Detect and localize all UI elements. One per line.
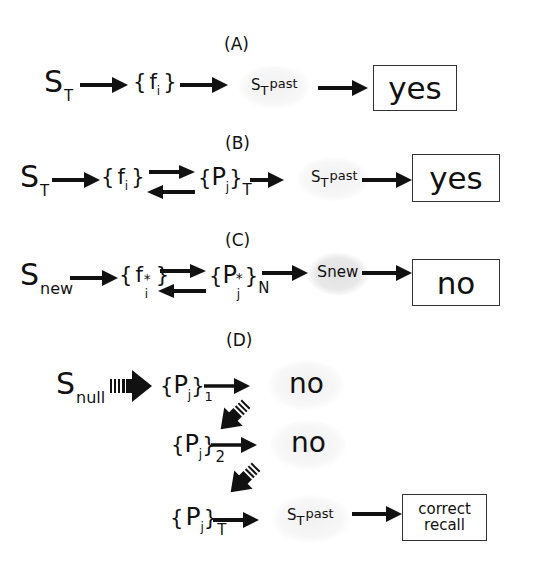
arrow-right-icon <box>362 172 414 188</box>
brace-open: { <box>160 374 173 398</box>
symbol-base: S <box>311 168 321 186</box>
panel-label-b: (B) <box>225 133 250 153</box>
output-label-line-2: recall <box>418 518 471 534</box>
brace-close: } <box>131 165 144 189</box>
pattern-subscript: j <box>200 520 203 534</box>
panel-label-a: (A) <box>224 34 249 54</box>
symbol-base: S <box>56 366 75 401</box>
brace-open: { <box>209 264 222 288</box>
pattern-symbol: P <box>222 261 236 289</box>
brace-open: { <box>171 433 184 457</box>
symbol-subscript: null <box>76 388 105 407</box>
feature-subscript: i <box>145 288 148 300</box>
input-state-snull: Snull <box>56 369 105 399</box>
input-state-snew: Snew <box>20 260 73 290</box>
pattern-symbol: P <box>211 163 225 191</box>
pattern-subscript: j <box>199 447 202 461</box>
output-label: yes <box>388 70 442 106</box>
novel-star: * <box>236 271 243 285</box>
novel-star: * <box>144 272 151 286</box>
brace-close: } <box>163 70 176 94</box>
output-box-yes: yes <box>412 154 500 202</box>
symbol-base: S <box>287 506 297 524</box>
brace-close: } <box>229 166 242 190</box>
pattern-set-subscript: N <box>258 279 269 297</box>
brace-close: } <box>191 374 204 398</box>
panel-label-c: (C) <box>225 230 250 250</box>
pattern-subscript: j <box>226 180 229 194</box>
novel-pattern-set: {P*j}N <box>209 263 269 287</box>
arrow-right-icon <box>318 80 370 96</box>
bidirectional-arrows-icon <box>147 164 197 200</box>
panel-label-d: (D) <box>226 330 252 350</box>
arrow-right-icon <box>70 270 120 286</box>
symbol-subscript: T <box>321 175 329 190</box>
result-no-2: no <box>291 426 326 459</box>
feature-symbol: f <box>135 263 142 287</box>
symbol-subscript: new <box>40 279 73 298</box>
output-box-correct-recall: correct recall <box>402 494 487 541</box>
symbol-base: S <box>251 76 261 94</box>
output-label: correct recall <box>418 502 471 534</box>
output-label: no <box>437 265 476 301</box>
brace-open: { <box>101 165 114 189</box>
arrow-right-icon <box>352 506 404 522</box>
output-box-yes: yes <box>373 65 457 111</box>
input-state-st: ST <box>20 162 49 192</box>
memory-state-st-past: STpast <box>251 76 298 94</box>
symbol-base: S <box>317 262 327 281</box>
memory-state-st-past: STpast <box>311 168 358 186</box>
pattern-subscript: j <box>237 288 240 300</box>
hatched-arrow-right-icon <box>110 370 154 402</box>
output-box-no: no <box>412 259 500 306</box>
brace-close: } <box>245 264 258 288</box>
symbol-superscript: past <box>329 168 357 183</box>
brace-open: { <box>119 263 132 287</box>
arrow-right-icon <box>52 172 102 188</box>
symbol-subscript: T <box>261 83 269 98</box>
arrow-right-icon <box>211 437 259 453</box>
hatched-arrow-down-left-icon <box>222 463 262 499</box>
arrow-right-icon <box>80 77 130 93</box>
symbol-subscript: new <box>327 263 358 281</box>
symbol-superscript: past <box>305 506 333 521</box>
pattern-subscript: j <box>188 388 191 402</box>
memory-state-st-past: STpast <box>287 506 334 524</box>
symbol-base: S <box>44 64 63 99</box>
arrow-right-icon <box>362 265 414 281</box>
pattern-symbol: P <box>184 430 198 458</box>
memory-state-snew: Snew <box>317 262 358 281</box>
input-state-st: ST <box>44 67 73 97</box>
output-label: yes <box>429 160 483 196</box>
hatched-arrow-down-left-icon <box>212 400 252 436</box>
feature-set: {fi} <box>101 167 145 188</box>
feature-subscript: i <box>157 84 160 98</box>
arrow-right-icon <box>250 172 286 188</box>
brace-open: { <box>198 166 211 190</box>
symbol-subscript: T <box>40 182 49 200</box>
feature-symbol: f <box>149 70 156 94</box>
pattern-symbol: P <box>185 502 200 531</box>
pattern-symbol: P <box>173 371 187 399</box>
arrow-right-icon <box>204 378 252 394</box>
symbol-superscript: past <box>269 76 297 91</box>
arrow-right-icon <box>180 77 230 93</box>
pattern-set: {Pj}T <box>198 165 252 189</box>
arrow-right-icon <box>213 512 261 528</box>
arrow-right-icon <box>262 265 310 281</box>
feature-subscript: i <box>125 179 128 193</box>
brace-open: { <box>133 70 146 94</box>
feature-symbol: f <box>117 165 124 189</box>
symbol-base: S <box>20 159 39 194</box>
result-no-1: no <box>289 367 324 400</box>
feature-set: {fi} <box>133 72 177 93</box>
symbol-subscript: T <box>297 513 305 528</box>
symbol-base: S <box>20 257 39 292</box>
brace-open: { <box>170 506 183 530</box>
symbol-subscript: T <box>64 87 73 105</box>
bidirectional-arrows-icon <box>158 263 208 299</box>
